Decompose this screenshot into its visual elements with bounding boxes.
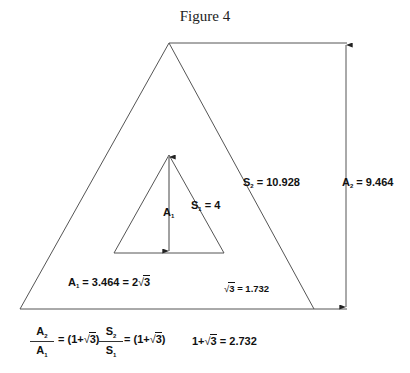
ratio-s-fraction: S2 S1 (99, 325, 123, 358)
sqrt3-value: √3 = 1.732 (224, 283, 269, 294)
ratio-a-value: = (1+√3) (58, 333, 100, 345)
one-plus-sqrt3-value: 1+√3 = 2.732 (192, 335, 257, 347)
ratio-a-fraction: A2 A1 (30, 325, 54, 358)
outer-side-label: S2 = 10.928 (243, 176, 300, 189)
a1-equation: A1 = 3.464 = 2√3 (68, 276, 150, 289)
inner-height-label: A1 (163, 206, 174, 219)
ratio-s-value: = (1+√3) (124, 333, 166, 345)
inner-side-label: S1 = 4 (191, 199, 220, 212)
outer-height-label: A2 = 9.464 (342, 176, 393, 189)
